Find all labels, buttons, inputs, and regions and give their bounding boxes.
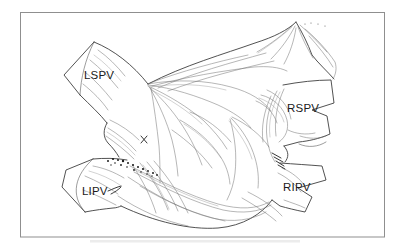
label-ripv: RIPV	[283, 181, 311, 193]
figure-border	[21, 13, 385, 238]
label-lspv: LSPV	[84, 69, 114, 81]
left-atrium-illustration: LSPV RSPV LIPV RIPV	[0, 0, 408, 250]
label-rspv: RSPV	[287, 102, 319, 114]
figure-container: LSPV RSPV LIPV RIPV	[0, 0, 408, 250]
frame-shadow	[90, 240, 300, 243]
label-lipv: LIPV	[82, 185, 108, 197]
